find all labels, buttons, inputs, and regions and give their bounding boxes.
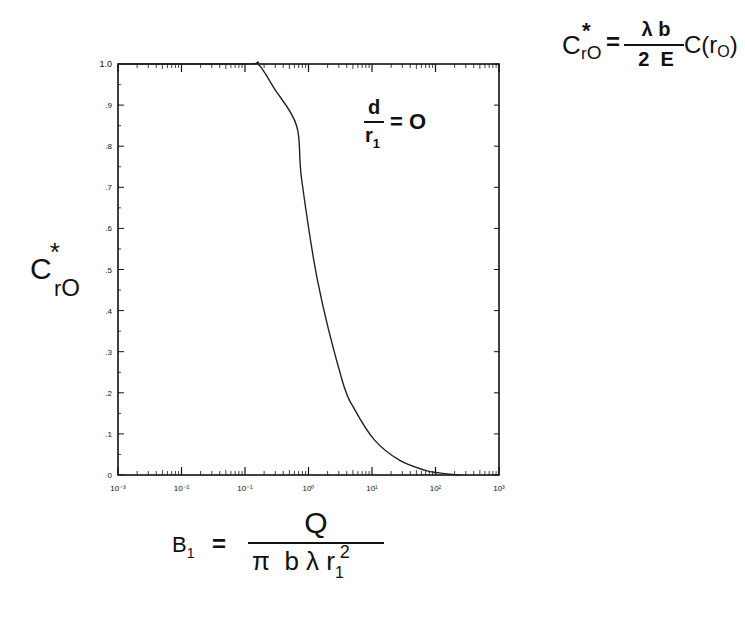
x-tick-label: 10⁻¹ xyxy=(237,484,253,493)
y-tick-label: .9 xyxy=(105,101,112,110)
y-label-sub: rO xyxy=(54,274,80,302)
x-tick-label: 10⁰ xyxy=(303,484,315,493)
y-label-base: C xyxy=(30,252,52,285)
x-tick-label: 10³ xyxy=(493,484,505,493)
param-numerator: d xyxy=(364,96,384,119)
def-lhs-sub: rO xyxy=(581,42,601,64)
def-rhs: C(rO) xyxy=(684,31,738,59)
y-axis-label: C*rO xyxy=(30,252,62,286)
y-tick-label: 0 xyxy=(108,471,113,480)
def-numerator: λ b xyxy=(626,18,686,41)
x-label-fraction-bar xyxy=(248,542,384,544)
x-axis-ticks: 10⁻³10⁻²10⁻¹10⁰10¹10²10³ xyxy=(110,64,505,493)
y-tick-label: .5 xyxy=(105,266,112,275)
y-tick-label: .1 xyxy=(105,430,112,439)
plot-frame xyxy=(118,64,499,475)
y-tick-label: 1.0 xyxy=(99,59,112,69)
y-axis-ticks: 0.1.2.3.4.5.6.7.8.91.0 xyxy=(99,59,499,480)
y-tick-label: .8 xyxy=(105,142,112,151)
y-label-star: * xyxy=(50,237,60,267)
x-tick-label: 10⁻³ xyxy=(110,484,126,493)
y-tick-label: .2 xyxy=(105,389,112,398)
x-label-numerator: Q xyxy=(248,506,384,540)
x-tick-label: 10⁻² xyxy=(174,484,190,493)
x-label-equals: = xyxy=(212,530,226,558)
fraction-bar xyxy=(364,121,384,123)
def-denominator: 2 E xyxy=(626,48,686,71)
param-equals: = O xyxy=(390,109,426,135)
y-tick-label: .3 xyxy=(105,348,112,357)
x-tick-label: 10² xyxy=(430,484,442,493)
x-tick-label: 10¹ xyxy=(366,484,378,493)
def-fraction-bar xyxy=(624,44,684,46)
def-equals: = xyxy=(606,28,620,56)
definition-equation: C * rO = λ b 2 E C(rO) xyxy=(562,14,742,84)
y-tick-label: .4 xyxy=(105,307,112,316)
def-lhs-base: C xyxy=(562,30,581,61)
x-label-denominator: π b λ r12 xyxy=(252,546,354,577)
y-tick-label: .7 xyxy=(105,183,112,192)
param-denominator: r1 xyxy=(365,124,380,147)
def-lhs-star: * xyxy=(582,18,591,44)
y-tick-label: .6 xyxy=(105,224,112,233)
x-axis-label: B1 = Q π b λ r12 xyxy=(172,512,432,592)
x-label-lhs: B1 xyxy=(172,532,194,558)
